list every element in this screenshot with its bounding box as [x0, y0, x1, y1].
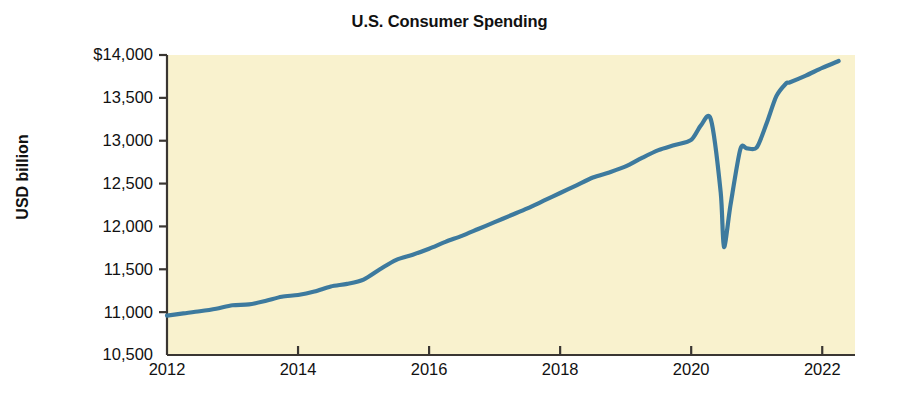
x-tick-label: 2012 — [149, 360, 186, 378]
y-tick-label: $14,000 — [93, 45, 153, 63]
x-tick-label: 2016 — [411, 360, 448, 378]
y-tick-label: 13,500 — [103, 88, 153, 106]
plot-area-background — [167, 55, 855, 355]
x-tick-labels: 201220142016201820202022 — [149, 360, 841, 378]
x-tick-label: 2020 — [673, 360, 710, 378]
y-tick-label: 12,000 — [103, 217, 153, 235]
y-tick-label: 12,500 — [103, 174, 153, 192]
y-tick-label: 11,500 — [104, 260, 153, 278]
y-tick-marks — [159, 55, 167, 312]
y-tick-label: 11,000 — [104, 303, 153, 321]
line-chart-plot: 10,50011,00011,50012,00012,50013,00013,5… — [0, 0, 899, 407]
y-tick-label: 10,500 — [103, 345, 153, 363]
x-tick-label: 2022 — [804, 360, 841, 378]
x-tick-label: 2018 — [542, 360, 579, 378]
plot-background-group — [167, 55, 855, 355]
chart-figure: U.S. Consumer Spending USD billion 10,50… — [0, 0, 899, 407]
y-tick-labels: 10,50011,00011,50012,00012,50013,00013,5… — [93, 45, 153, 363]
y-tick-label: 13,000 — [103, 131, 153, 149]
x-tick-label: 2014 — [280, 360, 317, 378]
